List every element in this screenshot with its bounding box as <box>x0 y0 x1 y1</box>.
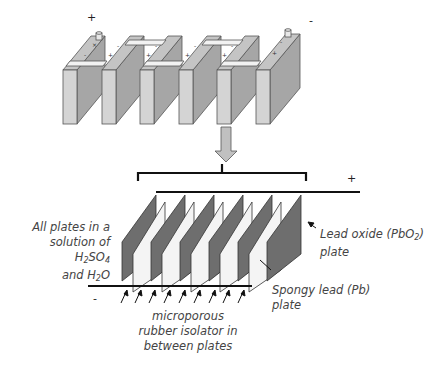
svg-text:+: + <box>146 51 151 58</box>
svg-text:+: + <box>108 51 113 58</box>
negative-bus-sign: - <box>93 292 97 305</box>
battery-cell <box>179 36 221 124</box>
lead-oxide-line-2: plate <box>320 245 424 260</box>
battery-positive-sign: + <box>87 11 96 24</box>
solution-line-3: and H2O <box>12 268 110 286</box>
isolator-line-3: between plates <box>128 339 248 354</box>
isolator-line-2: rubber isolator in <box>128 324 248 339</box>
spongy-line-1: Spongy lead (Pb) <box>272 283 370 298</box>
isolator-line-1: microporous <box>128 309 248 324</box>
terminal-posts <box>96 29 291 40</box>
solution-line-1: All plates in a <box>12 220 110 235</box>
lead-oxide-line-1: Lead oxide (PbO2) <box>320 227 424 245</box>
lead-oxide-pointer <box>308 222 316 228</box>
text-fragment: Lead oxide (PbO <box>320 227 414 241</box>
positive-bus-sign: + <box>347 172 356 185</box>
plates <box>122 195 301 292</box>
down-arrow <box>215 127 237 162</box>
text-fragment: and H <box>62 268 96 282</box>
cell-bracket <box>138 164 306 181</box>
svg-text:-: - <box>194 42 196 49</box>
spongy-line-2: plate <box>272 298 370 313</box>
battery-cell <box>63 36 105 124</box>
svg-text:-: - <box>280 38 282 45</box>
spongy-lead-label: Spongy lead (Pb) plate <box>272 283 370 313</box>
svg-text:+: + <box>185 51 190 58</box>
isolator-label: microporous rubber isolator in between p… <box>128 309 248 354</box>
svg-text:-: - <box>84 51 86 58</box>
text-fragment: SO <box>89 250 105 264</box>
battery-cell <box>140 36 182 124</box>
isolator-arrows <box>121 290 245 303</box>
text-fragment: ) <box>419 227 424 241</box>
lead-oxide-label: Lead oxide (PbO2) plate <box>320 227 424 260</box>
svg-text:-: - <box>231 42 233 49</box>
solution-line-2: solution of H2SO4 <box>12 235 110 268</box>
svg-text:×: × <box>92 41 97 48</box>
svg-text:+: + <box>222 51 227 58</box>
subscript: 4 <box>105 256 110 265</box>
svg-text:-: - <box>155 42 157 49</box>
battery-cell <box>217 36 259 124</box>
battery-negative-sign: - <box>309 14 313 27</box>
battery-cell <box>102 36 144 124</box>
solution-label: All plates in a solution of H2SO4 and H2… <box>12 220 110 286</box>
svg-text:-: - <box>117 42 119 49</box>
battery-cells <box>63 34 300 124</box>
text-fragment: O <box>101 268 110 282</box>
battery-cell <box>256 34 300 124</box>
svg-text:+: + <box>272 49 277 56</box>
